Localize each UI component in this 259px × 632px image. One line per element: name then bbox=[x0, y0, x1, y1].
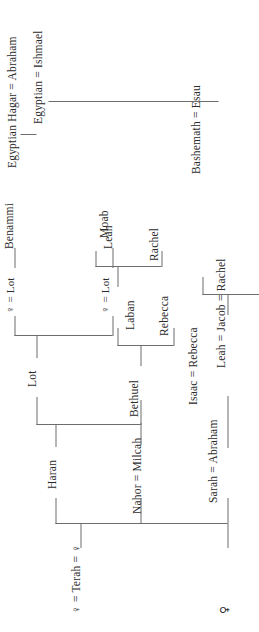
node-terah-union: ♀ = Terah = ♀ bbox=[70, 544, 82, 614]
connector-laban-spine bbox=[95, 266, 161, 267]
connector-terah-to-abraham bbox=[227, 498, 228, 524]
node-lot: Lot bbox=[26, 370, 38, 387]
family-tree-figure: ♀ = Terah = ♀ ♀ Haran Nahor = Milcah Sar… bbox=[0, 0, 259, 632]
node-leah-jacob-rachel: Leah = Jacob = Rachel bbox=[215, 258, 227, 368]
connector-lot-to-daughter-lower bbox=[112, 316, 113, 336]
connector-terah-to-nahor bbox=[140, 498, 141, 524]
connector-bethuel-to-laban bbox=[117, 328, 118, 346]
connector-daughter-to-benammi bbox=[14, 248, 15, 268]
connector-sarah-abraham-to-isaac bbox=[227, 396, 228, 448]
connector-haran-to-milcah bbox=[140, 400, 141, 425]
node-rebecca: Rebecca bbox=[158, 296, 170, 336]
node-isaac-rebecca: Isaac = Rebecca bbox=[187, 327, 199, 405]
node-female-left: ♀ bbox=[218, 606, 229, 614]
connector-isaac-spine bbox=[202, 294, 259, 295]
connector-terah-wife-right bbox=[80, 524, 81, 548]
node-sarah-abraham: Sarah = Abraham bbox=[207, 419, 219, 503]
connector-nahor-milcah-to-bethuel bbox=[140, 423, 141, 445]
connector-hagar-to-ishmael bbox=[20, 134, 36, 135]
connector-bethuel-spine bbox=[117, 345, 173, 346]
node-leah: Leah bbox=[102, 225, 114, 249]
node-esau-bashemath: Bashemath = Esau bbox=[190, 85, 202, 174]
connector-laban-to-rachel bbox=[161, 251, 162, 267]
connector-daughter-to-moab bbox=[112, 248, 113, 268]
connector-lot-out bbox=[36, 336, 37, 358]
connector-laban-out bbox=[117, 267, 118, 287]
connector-bethuel-out bbox=[140, 346, 141, 366]
node-rachel: Rachel bbox=[148, 228, 160, 261]
node-hagar-abraham: Egyptian Hagar = Abraham bbox=[6, 36, 18, 168]
connector-terah-to-haran bbox=[55, 498, 56, 524]
connector-lot-spine bbox=[14, 335, 112, 336]
connector-laban-to-leah bbox=[95, 251, 96, 267]
connector-isaac-rebecca-out bbox=[227, 295, 228, 315]
connector-lot-to-daughter-upper bbox=[14, 316, 15, 336]
node-benammi: Benammi bbox=[3, 203, 15, 249]
connector-haran-out bbox=[55, 425, 56, 447]
connector-egyptian-ishmael-to-bashemath bbox=[48, 101, 218, 102]
node-bethuel: Bethuel bbox=[128, 380, 140, 417]
node-daughter-lot-upper: ♀ = Lot bbox=[4, 277, 15, 314]
connector-bethuel-to-rebecca bbox=[173, 328, 174, 346]
node-laban: Laban bbox=[124, 300, 136, 330]
node-egyptian-ishmael: Egyptian = Ishmael bbox=[32, 30, 44, 124]
node-daughter-lot-lower: ♀ = Lot bbox=[99, 277, 110, 314]
node-haran: Haran bbox=[46, 460, 58, 489]
connector-terah-wife-left bbox=[227, 524, 228, 548]
connector-haran-spine bbox=[36, 424, 140, 425]
connector-haran-to-lot bbox=[36, 397, 37, 425]
connector-isaac-to-jacob bbox=[202, 277, 203, 295]
